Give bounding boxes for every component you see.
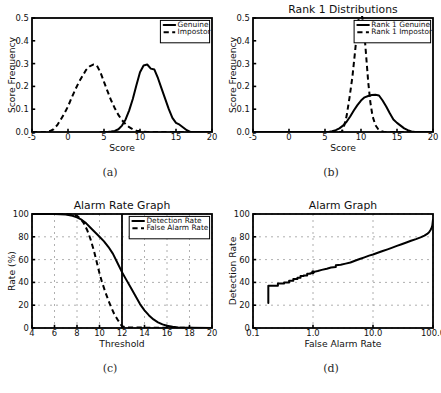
y-tick-label: 20 [239, 300, 250, 310]
chart-title: Alarm Graph [309, 199, 377, 212]
series-line-genuine [100, 65, 212, 132]
chart-b-svg: Rank 1 Distributions-5051015200.00.10.20… [221, 0, 441, 168]
x-tick-label: 100.0 [421, 328, 441, 338]
y-tick-label: 0.0 [236, 127, 249, 137]
figure-panel-grid: -5051015200.00.10.20.30.40.5ScoreScore F… [0, 0, 441, 393]
legend-label: Impostor [178, 27, 212, 36]
panel-b: Rank 1 Distributions-5051015200.00.10.20… [221, 0, 441, 196]
x-tick-label: -5 [28, 132, 36, 142]
y-tick-label: 60 [239, 255, 250, 265]
x-tick-label: 5 [101, 132, 106, 142]
x-axis-label: Score [330, 142, 356, 153]
y-tick-label: 60 [18, 255, 29, 265]
x-tick-label: 20 [428, 132, 439, 142]
chart-legend: GenuineImpostor [160, 20, 211, 43]
y-tick-label: 80 [18, 232, 29, 242]
x-axis-label: Threshold [98, 338, 144, 349]
axes-frame [253, 214, 433, 328]
panel-a: -5051015200.00.10.20.30.40.5ScoreScore F… [0, 0, 220, 196]
panel-c-caption: (c) [0, 362, 220, 375]
chart-d-svg: Alarm Graph0.11.010.0100.0020406080100Fa… [221, 196, 441, 364]
y-tick-label: 0 [23, 323, 28, 333]
chart-title: Alarm Rate Graph [74, 199, 171, 212]
x-tick-label: 18 [184, 328, 195, 338]
y-tick-label: 0 [244, 323, 249, 333]
panel-c: Alarm Rate Graph468101214161820020406080… [0, 196, 220, 393]
x-tick-label: 10 [135, 132, 146, 142]
y-tick-label: 0.5 [236, 13, 249, 23]
panel-d-caption: (d) [221, 362, 441, 375]
panel-b-caption: (b) [221, 166, 441, 179]
y-tick-label: 0.3 [15, 59, 28, 69]
x-tick-label: 4 [29, 328, 34, 338]
panel-d: Alarm Graph0.11.010.0100.0020406080100Fa… [221, 196, 441, 393]
x-tick-label: 16 [162, 328, 173, 338]
y-axis-label: Rate (%) [6, 251, 17, 291]
y-tick-label: 0.3 [236, 59, 249, 69]
y-tick-label: 40 [18, 277, 29, 287]
chart-title: Rank 1 Distributions [288, 3, 398, 16]
chart-legend: Detection RateFalse Alarm Rate [129, 216, 209, 239]
y-tick-label: 0.4 [15, 36, 28, 46]
x-tick-label: 0 [286, 132, 291, 142]
x-tick-label: -5 [249, 132, 257, 142]
y-tick-label: 0.2 [236, 81, 249, 91]
y-tick-label: 0.1 [236, 104, 249, 114]
operating-point-marker [311, 270, 315, 274]
series-line-impostor [32, 65, 212, 132]
x-tick-label: 6 [52, 328, 57, 338]
legend-label: Rank 1 Impostor [371, 27, 433, 36]
y-tick-label: 0.0 [15, 127, 28, 137]
y-tick-label: 100 [234, 209, 250, 219]
x-tick-label: 20 [207, 328, 218, 338]
y-tick-label: 40 [239, 277, 250, 287]
y-tick-label: 0.5 [15, 13, 28, 23]
y-tick-label: 100 [13, 209, 29, 219]
x-tick-label: 5 [322, 132, 327, 142]
x-tick-label: 20 [207, 132, 218, 142]
series-line-rank-1-genuine [253, 95, 433, 132]
y-tick-label: 80 [239, 232, 250, 242]
x-tick-label: 10 [356, 132, 367, 142]
x-axis-label: Score [109, 142, 135, 153]
x-tick-label: 0 [65, 132, 70, 142]
x-tick-label: 15 [171, 132, 182, 142]
x-axis-label: False Alarm Rate [304, 338, 381, 349]
chart-c-svg: Alarm Rate Graph468101214161820020406080… [0, 196, 220, 364]
y-axis-label: Detection Rate [227, 236, 238, 305]
panel-a-caption: (a) [0, 166, 220, 179]
legend-label: False Alarm Rate [146, 223, 208, 232]
chart-legend: Rank 1 GenuineRank 1 Impostor [354, 20, 433, 43]
y-axis-label: Score Frequency [227, 36, 238, 113]
chart-a-svg: -5051015200.00.10.20.30.40.5ScoreScore F… [0, 0, 220, 168]
y-tick-label: 20 [18, 300, 29, 310]
x-tick-label: 15 [392, 132, 403, 142]
y-tick-label: 0.1 [15, 104, 28, 114]
y-tick-label: 0.2 [15, 81, 28, 91]
y-tick-label: 0.4 [236, 36, 249, 46]
y-axis-label: Score Frequency [6, 36, 17, 113]
series-line-roc [268, 220, 433, 303]
x-tick-label: 8 [74, 328, 79, 338]
